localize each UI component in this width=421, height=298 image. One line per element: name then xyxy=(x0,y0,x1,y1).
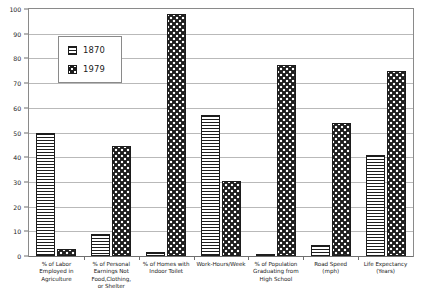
y-tick-label-10: 10 xyxy=(13,228,21,235)
category-label-line: High School xyxy=(260,276,293,282)
category-label-line: (mph) xyxy=(322,268,339,274)
y-tick-label-30: 30 xyxy=(13,178,21,185)
x-axis-group-separator xyxy=(303,256,304,260)
y-tick-label-60: 60 xyxy=(13,104,21,111)
bar-1870 xyxy=(36,133,55,257)
x-axis-category-label: % of PersonalEarnings NotFood,Clothing,o… xyxy=(80,261,143,291)
bar-1979 xyxy=(387,71,406,256)
category-label-line: Food,Clothing, xyxy=(91,276,131,282)
category-label-line: Life Expectancy xyxy=(364,261,408,267)
y-tick-label-90: 90 xyxy=(13,30,21,37)
legend-label-1979: 1979 xyxy=(83,64,105,74)
bar-group xyxy=(194,9,249,256)
x-axis-group-separator xyxy=(84,256,85,260)
bar-1979 xyxy=(222,181,241,256)
bar-1979 xyxy=(277,65,296,256)
x-axis-group-separator xyxy=(358,256,359,260)
legend-item-1979: 1979 xyxy=(68,64,105,74)
gridline-0 xyxy=(29,256,413,257)
bar-group xyxy=(303,9,358,256)
bar-1979 xyxy=(332,123,351,256)
bar-1870 xyxy=(91,234,110,256)
y-tick-label-20: 20 xyxy=(13,203,21,210)
x-axis-category-label: % of LaborEmployed inAgriculture xyxy=(25,261,88,283)
y-tick-label-70: 70 xyxy=(13,80,21,87)
legend-swatch-1979-icon xyxy=(68,65,77,74)
x-axis-group-separator xyxy=(248,256,249,260)
category-label-line: or Shelter xyxy=(98,283,125,289)
y-tick-label-100: 100 xyxy=(9,6,21,13)
bar-1870 xyxy=(256,254,275,256)
x-axis-group-separator xyxy=(139,256,140,260)
x-axis-category-label: Life Expectancy(Years) xyxy=(354,261,417,276)
bar-1979 xyxy=(112,146,131,256)
category-label-line: Agriculture xyxy=(41,276,71,282)
bar-group xyxy=(139,9,194,256)
category-label-line: % of Population xyxy=(254,261,297,267)
category-label-line: Work-Hours/Week xyxy=(196,261,245,267)
x-axis-category-label: % of Homes withIndoor Toilet xyxy=(135,261,198,276)
category-label-line: Indoor Toilet xyxy=(149,268,183,274)
category-label-line: Earnings Not xyxy=(94,268,129,274)
bar-chart: 0102030405060708090100 % of LaborEmploye… xyxy=(0,0,421,298)
x-axis-group-separator xyxy=(194,256,195,260)
y-axis: 0102030405060708090100 xyxy=(0,8,28,257)
bar-1870 xyxy=(366,155,385,256)
bar-1870 xyxy=(311,245,330,256)
bar-group xyxy=(248,9,303,256)
legend-label-1870: 1870 xyxy=(83,45,105,55)
category-label-line: Graduating from xyxy=(253,268,298,274)
bar-group xyxy=(358,9,413,256)
category-label-line: % of Homes with xyxy=(143,261,190,267)
legend-swatch-1870-icon xyxy=(68,46,77,55)
bar-1870 xyxy=(201,115,220,256)
category-label-line: % of Labor xyxy=(42,261,72,267)
y-tick-label-50: 50 xyxy=(13,129,21,136)
category-label-line: Employed in xyxy=(39,268,73,274)
bar-1979 xyxy=(167,14,186,256)
y-tick-label-80: 80 xyxy=(13,55,21,62)
category-label-line: (Years) xyxy=(376,268,395,274)
y-tick-label-40: 40 xyxy=(13,154,21,161)
bar-1870 xyxy=(146,252,165,256)
x-axis-category-label: % of PopulationGraduating fromHigh Schoo… xyxy=(244,261,307,283)
x-axis-category-label: Road Speed(mph) xyxy=(299,261,362,276)
x-axis-category-labels: % of LaborEmployed inAgriculture% of Per… xyxy=(29,261,413,297)
bar-1979 xyxy=(57,249,76,256)
category-label-line: Road Speed xyxy=(314,261,347,267)
legend-item-1870: 1870 xyxy=(68,45,105,55)
legend: 1870 1979 xyxy=(58,36,122,83)
y-tick-label-0: 0 xyxy=(17,253,21,260)
x-axis-category-label: Work-Hours/Week xyxy=(190,261,253,268)
category-label-line: % of Personal xyxy=(93,261,130,267)
